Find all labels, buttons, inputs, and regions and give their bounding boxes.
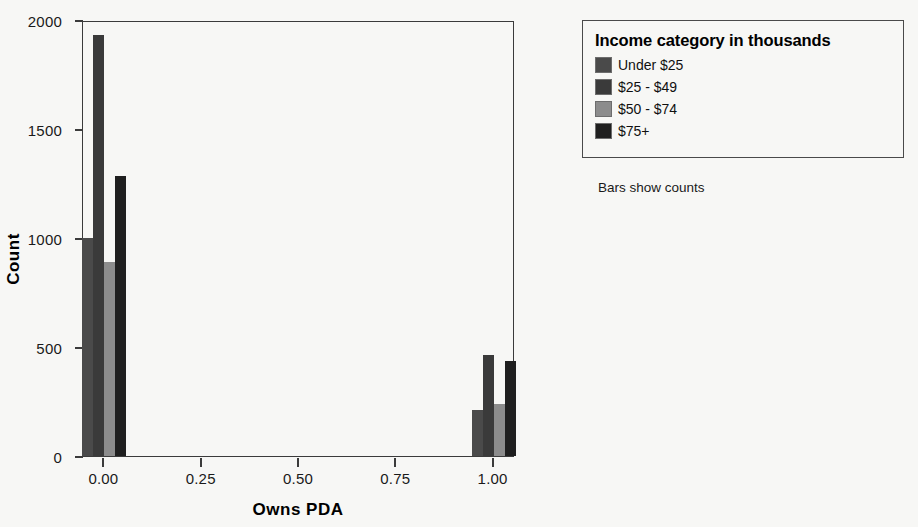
legend-swatch-icon [595, 79, 612, 95]
y-tick-label: 1000 [28, 231, 62, 248]
x-tick-label: 0.00 [88, 470, 118, 487]
legend-item[interactable]: $75+ [595, 120, 891, 142]
bar [104, 262, 115, 456]
legend-swatch-icon [595, 123, 612, 139]
x-tick-label: 1.00 [478, 470, 508, 487]
x-tick-mark [492, 458, 494, 467]
legend-swatch-icon [595, 101, 612, 117]
legend-items: Under $25$25 - $49$50 - $74$75+ [595, 54, 891, 142]
legend-item[interactable]: $25 - $49 [595, 76, 891, 98]
y-tick-label: 500 [36, 340, 62, 357]
x-tick-label: 0.25 [186, 470, 216, 487]
x-tick-mark [394, 458, 396, 467]
footnote: Bars show counts [598, 180, 705, 195]
bar [93, 35, 104, 456]
x-axis-title: Owns PDA [253, 500, 344, 520]
y-tick-label: 1500 [28, 122, 62, 139]
bar [115, 176, 126, 456]
x-tick-label: 0.50 [283, 470, 313, 487]
x-tick-mark [297, 458, 299, 467]
y-tick-label: 0 [53, 449, 62, 466]
legend-title: Income category in thousands [595, 31, 891, 50]
y-axis: 0500100015002000 [0, 0, 74, 527]
bar [505, 361, 516, 456]
legend-item-label: $75+ [618, 124, 650, 138]
legend: Income category in thousands Under $25$2… [582, 20, 904, 158]
bar [82, 238, 93, 456]
y-tick-label: 2000 [28, 13, 62, 30]
bar [472, 410, 483, 456]
legend-item[interactable]: Under $25 [595, 54, 891, 76]
bar [494, 404, 505, 456]
plot-area [82, 21, 514, 457]
legend-item-label: $50 - $74 [618, 102, 677, 116]
x-tick-mark [200, 458, 202, 467]
bar [483, 355, 494, 456]
legend-item-label: $25 - $49 [618, 80, 677, 94]
chart-canvas: Count 0500100015002000 0.000.250.500.751… [0, 0, 918, 527]
legend-item-label: Under $25 [618, 58, 683, 72]
x-tick-label: 0.75 [380, 470, 410, 487]
legend-swatch-icon [595, 57, 612, 73]
legend-item[interactable]: $50 - $74 [595, 98, 891, 120]
bars-layer [83, 22, 513, 456]
x-tick-mark [102, 458, 104, 467]
